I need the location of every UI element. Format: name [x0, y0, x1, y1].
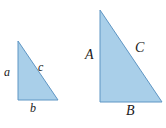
- geometry-figure: a c b A C B: [0, 0, 166, 128]
- small-triangle-label-a: a: [4, 66, 10, 78]
- large-triangle-label-A: A: [85, 48, 94, 62]
- large-right-triangle-shape: [100, 10, 162, 102]
- large-triangle-polygon: [100, 10, 162, 102]
- triangles-canvas: [0, 0, 166, 128]
- large-triangle-label-B: B: [126, 104, 135, 118]
- small-triangle-label-b: b: [30, 102, 36, 114]
- small-triangle-label-c: c: [38, 61, 43, 73]
- large-triangle-label-C: C: [135, 41, 144, 55]
